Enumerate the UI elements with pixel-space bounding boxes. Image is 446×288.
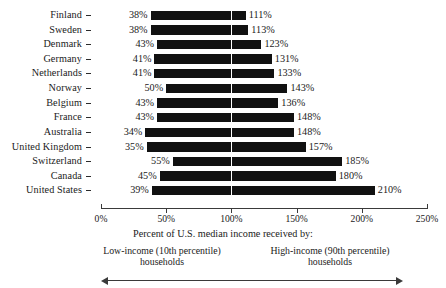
range-bar	[151, 25, 249, 34]
x-tick	[362, 209, 363, 213]
x-axis-right-endcap	[427, 204, 428, 209]
low-value-label: 38%	[129, 23, 148, 38]
x-tick-label: 150%	[285, 213, 307, 224]
x-tick-label: 250%	[416, 213, 438, 224]
category-label: Denmark	[43, 37, 82, 52]
category-tick	[86, 103, 91, 104]
low-value-label: 43%	[135, 110, 154, 125]
category-label: Finland	[50, 8, 82, 23]
table-row: United States39%210%	[0, 183, 446, 198]
category-label: Sweden	[49, 23, 82, 38]
category-tick	[86, 132, 91, 133]
low-value-label: 55%	[151, 154, 170, 169]
x-tick-label: 0%	[95, 213, 108, 224]
plot-area: Finland38%111%Sweden38%113%Denmark43%123…	[0, 0, 446, 212]
category-tick	[86, 161, 91, 162]
low-value-label: 34%	[124, 125, 143, 140]
category-label: Switzerland	[32, 154, 82, 169]
table-row: Denmark43%123%	[0, 37, 446, 52]
category-tick	[86, 73, 91, 74]
range-bar	[160, 171, 336, 180]
range-bar	[145, 128, 294, 137]
high-value-label: 157%	[309, 140, 333, 155]
reference-line-100	[231, 10, 232, 202]
high-value-label: 131%	[275, 52, 299, 67]
range-double-arrow	[101, 276, 403, 285]
high-value-label: 143%	[290, 81, 314, 96]
table-row: France43%148%	[0, 110, 446, 125]
category-label: Netherlands	[32, 66, 82, 81]
low-value-label: 45%	[138, 169, 157, 184]
category-label: United Kingdom	[12, 140, 82, 155]
table-row: Switzerland55%185%	[0, 154, 446, 169]
high-value-label: 185%	[345, 154, 369, 169]
category-tick	[86, 190, 91, 191]
high-value-label: 210%	[378, 183, 402, 198]
low-value-label: 43%	[135, 37, 154, 52]
high-value-label: 136%	[281, 96, 305, 111]
arrow-head-right-icon	[396, 277, 403, 285]
annotation-low-income-line1: Low-income (10th percentile)	[72, 245, 252, 256]
low-value-label: 35%	[125, 140, 144, 155]
range-bar	[173, 157, 343, 166]
annotation-high-income: High-income (90th percentile) households	[240, 245, 420, 268]
annotation-high-income-line2: households	[240, 256, 420, 267]
x-tick	[231, 209, 232, 213]
table-row: Sweden38%113%	[0, 23, 446, 38]
table-row: Norway50%143%	[0, 81, 446, 96]
table-row: Germany41%131%	[0, 52, 446, 67]
table-row: Australia34%148%	[0, 125, 446, 140]
x-axis-left-endcap	[101, 204, 102, 209]
category-label: Germany	[43, 52, 82, 67]
category-tick	[86, 117, 91, 118]
x-tick-label: 100%	[220, 213, 242, 224]
low-value-label: 41%	[133, 66, 152, 81]
low-value-label: 50%	[145, 81, 164, 96]
category-tick	[86, 44, 91, 45]
table-row: Belgium43%136%	[0, 96, 446, 111]
annotation-low-income: Low-income (10th percentile) households	[72, 245, 252, 268]
x-axis-line	[101, 208, 428, 209]
range-bar	[154, 54, 271, 63]
range-bar	[157, 40, 261, 49]
range-bar	[166, 84, 287, 93]
low-value-label: 39%	[130, 183, 149, 198]
range-bar	[152, 186, 375, 195]
high-value-label: 148%	[297, 110, 321, 125]
high-value-label: 148%	[297, 125, 321, 140]
x-axis-caption: Percent of U.S. median income received b…	[0, 228, 446, 239]
category-label: Norway	[49, 81, 82, 96]
annotation-high-income-line1: High-income (90th percentile)	[240, 245, 420, 256]
high-value-label: 180%	[339, 169, 363, 184]
arrow-shaft	[107, 280, 397, 281]
range-bar	[157, 113, 294, 122]
low-value-label: 43%	[135, 96, 154, 111]
category-tick	[86, 15, 91, 16]
table-row: Netherlands41%133%	[0, 66, 446, 81]
x-tick	[297, 209, 298, 213]
category-label: Australia	[44, 125, 82, 140]
category-tick	[86, 59, 91, 60]
category-tick	[86, 147, 91, 148]
category-tick	[86, 30, 91, 31]
category-tick	[86, 176, 91, 177]
category-label: France	[54, 110, 82, 125]
category-label: Canada	[51, 169, 82, 184]
table-row: Finland38%111%	[0, 8, 446, 23]
category-label: United States	[26, 183, 82, 198]
low-value-label: 41%	[133, 52, 152, 67]
range-bar	[147, 142, 306, 151]
category-label: Belgium	[46, 96, 82, 111]
x-tick-label: 50%	[157, 213, 175, 224]
high-value-label: 111%	[249, 8, 272, 23]
range-bar	[157, 98, 278, 107]
high-value-label: 123%	[264, 37, 288, 52]
range-bar	[154, 69, 274, 78]
x-tick-label: 200%	[351, 213, 373, 224]
category-tick	[86, 88, 91, 89]
high-value-label: 113%	[251, 23, 274, 38]
annotation-low-income-line2: households	[72, 256, 252, 267]
income-range-bar-chart: Finland38%111%Sweden38%113%Denmark43%123…	[0, 0, 446, 288]
high-value-label: 133%	[277, 66, 301, 81]
table-row: Canada45%180%	[0, 169, 446, 184]
